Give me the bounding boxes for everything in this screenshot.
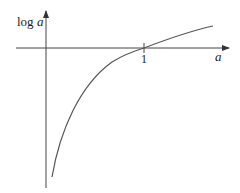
tick-label-1: 1 — [141, 52, 147, 66]
log-curve — [52, 26, 213, 177]
y-axis-label: log a — [17, 14, 44, 29]
log-graph: log a 1 a — [0, 0, 240, 193]
x-axis-label: a — [215, 49, 222, 64]
